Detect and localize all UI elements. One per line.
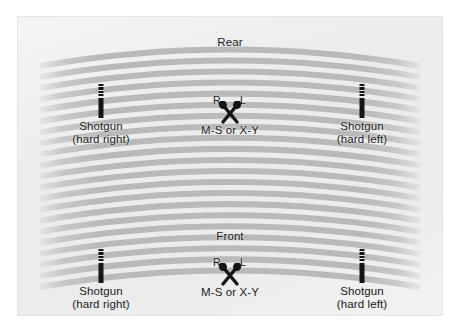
shotgun-label-text: Shotgun <box>79 285 123 297</box>
shotgun-sublabel-text: (hard left) <box>337 298 387 311</box>
shotgun-label-text: Shotgun <box>340 285 384 297</box>
shotgun-mic-rear-right-label: Shotgun (hard left) <box>337 120 387 146</box>
shotgun-mic-rear-right-position <box>360 84 365 118</box>
shotgun-sublabel-text: (hard right) <box>72 298 129 311</box>
shotgun-mic-rear-left-position <box>99 84 104 118</box>
shotgun-interference-tube-icon <box>360 249 365 265</box>
shotgun-interference-tube-icon <box>360 84 365 100</box>
shotgun-body-icon <box>360 265 365 283</box>
stereo-pair-rear <box>215 101 245 125</box>
shotgun-label-text: Shotgun <box>79 120 123 132</box>
shotgun-mic-front-left-label: Shotgun (hard right) <box>72 285 129 311</box>
shotgun-interference-tube-icon <box>99 84 104 100</box>
shotgun-sublabel-text: (hard left) <box>337 133 387 146</box>
diagram-canvas: Rear Shotgun (hard right) R L M-S or X-Y… <box>0 0 460 333</box>
shotgun-mic-front-right-position <box>360 249 365 283</box>
shotgun-body-icon <box>360 100 365 118</box>
stereo-pair-rear-label: M-S or X-Y <box>201 124 259 137</box>
shotgun-body-icon <box>99 265 104 283</box>
shotgun-interference-tube-icon <box>99 249 104 265</box>
shotgun-mic-rear-left-label: Shotgun (hard right) <box>72 120 129 146</box>
stereo-pair-front-label: M-S or X-Y <box>201 286 259 299</box>
shotgun-body-icon <box>99 100 104 118</box>
shotgun-label-text: Shotgun <box>340 120 384 132</box>
orientation-label-rear: Rear <box>217 36 242 49</box>
stereo-pair-front <box>215 263 245 287</box>
shotgun-mic-front-left-position <box>99 249 104 283</box>
orientation-label-front: Front <box>216 230 243 243</box>
shotgun-mic-front-right-label: Shotgun (hard left) <box>337 285 387 311</box>
shotgun-sublabel-text: (hard right) <box>72 133 129 146</box>
